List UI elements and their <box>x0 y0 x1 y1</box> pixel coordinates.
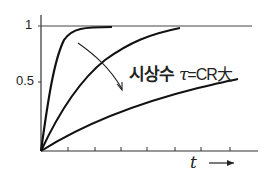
increasing-tau-arrow <box>78 43 122 89</box>
t-arrow-head-icon <box>227 160 234 166</box>
x-axis-label: t <box>190 152 197 172</box>
curve-large-tau <box>41 79 238 151</box>
y-label-one: 1 <box>25 17 32 32</box>
arrow-head-icon <box>117 82 122 90</box>
annotation-korean: 시상수 <box>129 64 174 84</box>
annotation-eq: =CR大 <box>187 66 231 83</box>
time-constant-annotation: 시상수 τ=CR大 <box>129 60 232 85</box>
y-label-half: 0.5 <box>16 73 34 88</box>
charging-curve-figure <box>0 0 274 176</box>
